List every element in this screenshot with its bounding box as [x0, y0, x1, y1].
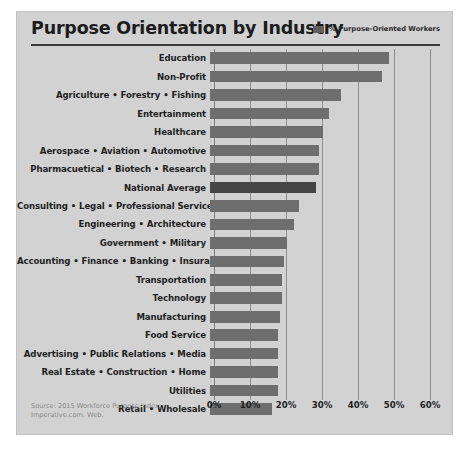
- category-label: National Average: [17, 183, 210, 193]
- bar-track: [210, 178, 454, 196]
- chart-row: Education: [17, 49, 454, 67]
- bar-track: [210, 197, 454, 215]
- bar: [210, 348, 278, 360]
- bar: [210, 237, 287, 249]
- bar: [210, 52, 389, 64]
- category-label: Education: [17, 53, 210, 63]
- bar: [210, 219, 294, 231]
- category-label: Real Estate • Construction • Home: [17, 367, 210, 377]
- legend-swatch-icon: [313, 26, 324, 33]
- bar-track: [210, 141, 454, 159]
- bar: [210, 200, 299, 212]
- chart-plot-area: EducationNon-ProfitAgriculture • Forestr…: [17, 49, 454, 400]
- chart-row: Aerospace • Aviation • Automotive: [17, 141, 454, 159]
- category-label: Government • Military: [17, 238, 210, 248]
- chart-card: Purpose Orientation by Industry % Purpos…: [16, 11, 453, 435]
- category-label: Non-Profit: [17, 72, 210, 82]
- bar: [210, 71, 382, 83]
- category-label: Aerospace • Aviation • Automotive: [17, 146, 210, 156]
- category-label: Technology: [17, 293, 210, 303]
- x-tick-label: 50%: [384, 400, 405, 410]
- bar-track: [210, 345, 454, 363]
- bar-track: [210, 104, 454, 122]
- page-title: Purpose Orientation by Industry: [31, 18, 343, 38]
- bar: [210, 108, 329, 120]
- bar: [210, 256, 284, 268]
- bar-track: [210, 160, 454, 178]
- x-tick-label: 40%: [348, 400, 369, 410]
- chart-row: Consulting • Legal • Professional Servic…: [17, 197, 454, 215]
- chart-row: Technology: [17, 289, 454, 307]
- bar-track: [210, 252, 454, 270]
- chart-row: Agriculture • Forestry • Fishing: [17, 86, 454, 104]
- category-label: Entertainment: [17, 109, 210, 119]
- category-label: Agriculture • Forestry • Fishing: [17, 90, 210, 100]
- bar: [210, 126, 323, 138]
- bar-track: [210, 271, 454, 289]
- x-tick-label: 30%: [312, 400, 333, 410]
- source-line-2: Imperative.com. Web.: [31, 411, 221, 420]
- bar-track: [210, 123, 454, 141]
- bar: [210, 311, 280, 323]
- chart-row: Transportation: [17, 271, 454, 289]
- category-label: Food Service: [17, 330, 210, 340]
- x-tick-label: 10%: [240, 400, 261, 410]
- chart-row: National Average: [17, 178, 454, 196]
- chart-header: Purpose Orientation by Industry % Purpos…: [17, 12, 454, 49]
- chart-bar-rows: EducationNon-ProfitAgriculture • Forestr…: [17, 49, 454, 400]
- bar: [210, 182, 316, 194]
- source-line-1: Source: 2015 Workforce Purpose Index.: [31, 402, 221, 411]
- bar-track: [210, 363, 454, 381]
- bar: [210, 145, 319, 157]
- bar-track: [210, 308, 454, 326]
- chart-row: Utilities: [17, 381, 454, 399]
- chart-legend: % Purpose-Oriented Workers: [313, 25, 440, 33]
- chart-row: Advertising • Public Relations • Media: [17, 345, 454, 363]
- chart-row: Real Estate • Construction • Home: [17, 363, 454, 381]
- chart-row: Non-Profit: [17, 67, 454, 85]
- category-label: Pharmacuetical • Biotech • Research: [17, 164, 210, 174]
- chart-row: Healthcare: [17, 123, 454, 141]
- title-divider: [31, 44, 440, 46]
- bar-track: [210, 86, 454, 104]
- bar-track: [210, 381, 454, 399]
- category-label: Engineering • Architecture: [17, 219, 210, 229]
- bar: [210, 292, 282, 304]
- bar-track: [210, 67, 454, 85]
- chart-row: Entertainment: [17, 104, 454, 122]
- category-label: Advertising • Public Relations • Media: [17, 349, 210, 359]
- chart-row: Food Service: [17, 326, 454, 344]
- chart-row: Accounting • Finance • Banking • Insuran…: [17, 252, 454, 270]
- chart-row: Engineering • Architecture: [17, 215, 454, 233]
- category-label: Accounting • Finance • Banking • Insuran…: [17, 256, 210, 266]
- category-label: Healthcare: [17, 127, 210, 137]
- category-label: Consulting • Legal • Professional Servic…: [17, 201, 210, 211]
- x-tick-label: 60%: [420, 400, 441, 410]
- bar-track: [210, 234, 454, 252]
- category-label: Transportation: [17, 275, 210, 285]
- bar: [210, 163, 319, 175]
- chart-source-note: Source: 2015 Workforce Purpose Index. Im…: [31, 402, 221, 420]
- bar: [210, 274, 282, 286]
- chart-row: Pharmacuetical • Biotech • Research: [17, 160, 454, 178]
- category-label: Utilities: [17, 386, 210, 396]
- chart-row: Government • Military: [17, 234, 454, 252]
- x-tick-label: 20%: [276, 400, 297, 410]
- bar: [210, 385, 278, 397]
- bar-track: [210, 215, 454, 233]
- legend-label: % Purpose-Oriented Workers: [329, 25, 440, 33]
- bar: [210, 329, 278, 341]
- bar-track: [210, 289, 454, 307]
- category-label: Manufacturing: [17, 312, 210, 322]
- bar: [210, 89, 341, 101]
- bar-track: [210, 326, 454, 344]
- bar: [210, 366, 278, 378]
- bar-track: [210, 49, 454, 67]
- chart-row: Manufacturing: [17, 308, 454, 326]
